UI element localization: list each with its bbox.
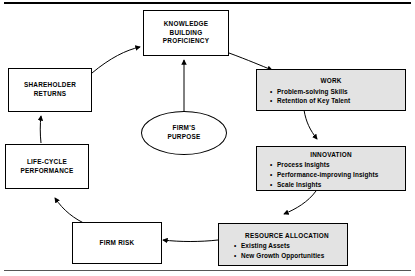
- node-shareholder-returns[interactable]: SHAREHOLDER RETURNS: [8, 68, 92, 112]
- list-item: Scale Insights: [277, 180, 405, 190]
- node-work-title: WORK: [257, 77, 405, 86]
- list-item: New Growth Opportunities: [241, 251, 347, 261]
- node-work[interactable]: WORK Problem-solving Skills Retention of…: [256, 69, 406, 111]
- edge-lifecycle-to-shareholder: [40, 116, 41, 143]
- node-resource-allocation[interactable]: RESOURCE ALLOCATION Existing Assets New …: [218, 223, 348, 266]
- node-knowledge-building-proficiency[interactable]: KNOWLEDGE BUILDING PROFICIENCY: [143, 10, 229, 56]
- node-knowledge-line-3: PROFICIENCY: [163, 37, 209, 44]
- node-firm-risk[interactable]: FIRM RISK: [72, 222, 162, 264]
- edge-shareholder-to-knowledge: [92, 47, 140, 73]
- node-shareholder-line-2: RETURNS: [34, 90, 67, 97]
- node-firms-purpose[interactable]: FIRM'S PURPOSE: [141, 111, 227, 155]
- list-item: Process Insights: [277, 160, 405, 170]
- edge-innovation-to-resource: [284, 191, 316, 214]
- node-shareholder-line-1: SHAREHOLDER: [24, 81, 76, 88]
- node-firm-risk-title: FIRM RISK: [100, 239, 135, 248]
- diagram-canvas: KNOWLEDGE BUILDING PROFICIENCY WORK Prob…: [0, 0, 415, 276]
- list-item: Existing Assets: [241, 241, 347, 251]
- list-item: Problem-solving Skills: [277, 87, 405, 97]
- edge-firmrisk-to-lifecycle: [55, 198, 88, 225]
- node-knowledge-line-2: BUILDING: [170, 29, 203, 36]
- node-innovation[interactable]: INNOVATION Process Insights Performance-…: [256, 146, 406, 191]
- node-life-cycle-line-1: LIFE-CYCLE: [27, 158, 67, 165]
- node-firms-purpose-line-2: PURPOSE: [167, 133, 200, 140]
- node-life-cycle-performance[interactable]: LIFE-CYCLE PERFORMANCE: [5, 144, 89, 189]
- list-item: Retention of Key Talent: [277, 96, 405, 106]
- edge-knowledge-to-work: [229, 53, 272, 70]
- edge-resource-to-firmrisk: [163, 240, 218, 242]
- node-firms-purpose-line-1: FIRM'S: [173, 124, 196, 131]
- node-innovation-bullets: Process Insights Performance-improving I…: [257, 160, 405, 189]
- list-item: Performance-improving Insights: [277, 170, 405, 180]
- node-innovation-title: INNOVATION: [257, 151, 405, 160]
- node-knowledge-line-1: KNOWLEDGE: [164, 20, 209, 27]
- node-resource-allocation-bullets: Existing Assets New Growth Opportunities: [227, 241, 347, 260]
- node-work-bullets: Problem-solving Skills Retention of Key …: [257, 87, 405, 106]
- node-life-cycle-line-2: PERFORMANCE: [21, 167, 74, 174]
- node-resource-allocation-title: RESOURCE ALLOCATION: [227, 232, 347, 241]
- edge-work-to-innovation: [304, 110, 317, 139]
